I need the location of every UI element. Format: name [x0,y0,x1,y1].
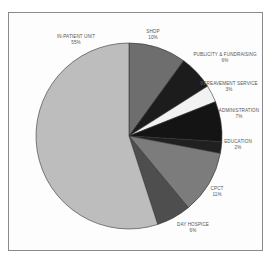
slice-label-percent: 6% [193,58,256,64]
slice-label-bereavement-service: BEREAVEMENT SERVICE3% [200,81,258,93]
slice-label-percent: 6% [177,228,209,234]
slice-label-shop: SHOP10% [146,29,159,41]
slice-label-administration: ADMINISTRATION7% [219,108,259,120]
slice-label-education: EDUCATION2% [224,139,252,151]
slice-label-percent: 3% [200,87,258,93]
slice-label-cpct: CPCT11% [211,186,224,198]
slice-label-percent: 2% [224,145,252,151]
slice-label-percent: 55% [57,40,95,46]
slice-label-in-patient-unit: IN-PATIENT UNIT55% [57,34,95,46]
slice-label-percent: 10% [146,35,159,41]
slice-label-day-hospice: DAY HOSPICE6% [177,222,209,234]
slice-label-percent: 7% [219,114,259,120]
pie-chart [0,0,273,259]
slice-label-publicity-fundraising: PUBLICITY & FUNDRAISING6% [193,52,256,64]
slice-label-percent: 11% [211,192,224,198]
